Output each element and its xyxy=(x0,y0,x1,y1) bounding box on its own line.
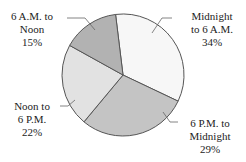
label-noon-6pm: Noon to 6 P.M. 22% xyxy=(4,100,60,139)
label-pct: 22% xyxy=(4,126,60,139)
label-6am-noon: 6 A.M. to Noon 15% xyxy=(4,10,60,49)
label-line: to 6 A.M. xyxy=(178,23,246,36)
label-midnight-6am: Midnight to 6 A.M. 34% xyxy=(178,10,246,49)
label-pct: 15% xyxy=(4,36,60,49)
label-line: Midnight xyxy=(178,10,246,23)
label-line: 6 A.M. to xyxy=(4,10,60,23)
label-line: 6 P.M. xyxy=(4,113,60,126)
label-pct: 34% xyxy=(178,36,246,49)
label-pct: 29% xyxy=(176,143,244,156)
label-6pm-midnight: 6 P.M. to Midnight 29% xyxy=(176,117,244,156)
label-line: Noon xyxy=(4,23,60,36)
label-line: Midnight xyxy=(176,130,244,143)
label-line: 6 P.M. to xyxy=(176,117,244,130)
label-line: Noon to xyxy=(4,100,60,113)
